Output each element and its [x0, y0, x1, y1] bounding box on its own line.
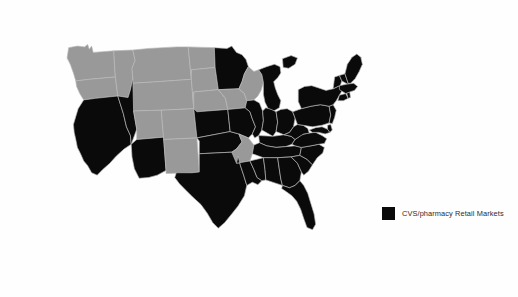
state-UT[interactable] [134, 110, 164, 139]
states-layer [67, 45, 362, 230]
state-CO[interactable] [161, 109, 197, 140]
state-PA[interactable] [293, 105, 331, 127]
state-NM[interactable] [164, 138, 200, 174]
state-WY[interactable] [132, 79, 194, 111]
state-MT[interactable] [132, 47, 191, 83]
state-MA[interactable] [339, 83, 357, 93]
us-states-map [18, 10, 398, 288]
state-WA[interactable] [67, 45, 115, 81]
state-ME[interactable] [345, 54, 362, 83]
legend-label-cvs-markets: CVS/pharmacy Retail Markets [402, 210, 504, 217]
state-MI[interactable] [259, 56, 298, 111]
state-AZ[interactable] [131, 137, 166, 178]
legend-swatch-cvs-markets [382, 207, 395, 220]
us-choropleth-figure: CVS/pharmacy Retail Markets [0, 0, 518, 297]
state-IN[interactable] [262, 108, 278, 137]
map-legend: CVS/pharmacy Retail Markets [382, 207, 504, 220]
state-FL[interactable] [282, 181, 316, 230]
